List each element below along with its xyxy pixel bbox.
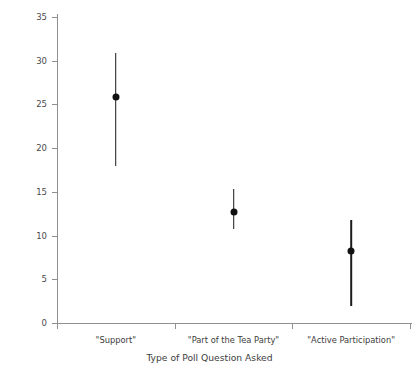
y-axis-tick [52,104,57,105]
x-axis-category-label: "Active Participation" [307,335,395,345]
chart-figure: Percent of Respondents Reporting Tea Par… [0,0,419,377]
y-axis-tick-label: 35 [7,12,47,22]
y-axis-tick-label: 10 [7,231,47,241]
y-axis-tick [52,279,57,280]
y-axis-tick-label: 5 [7,274,47,284]
y-axis-line [57,14,58,326]
data-point-marker [112,94,119,101]
y-axis-tick-label: 25 [7,99,47,109]
error-bar [115,53,117,166]
x-axis-line [55,323,412,324]
y-axis-tick-label: 30 [7,56,47,66]
y-axis-tick [52,61,57,62]
x-axis-tick [292,323,293,329]
x-axis-category-label: "Support" [96,335,136,345]
y-axis-tick-label: 0 [7,318,47,328]
y-axis-tick [52,148,57,149]
y-axis-tick-label: 20 [7,143,47,153]
x-axis-tick [410,323,411,329]
y-axis-tick-label: 15 [7,187,47,197]
x-axis-title: Type of Poll Question Asked [0,352,419,363]
x-axis-tick [175,323,176,329]
error-bar [350,220,352,307]
x-axis-tick [57,323,58,329]
data-point-marker [230,208,237,215]
data-point-marker [348,248,355,255]
y-axis-tick [52,192,57,193]
x-axis-category-label: "Part of the Tea Party" [188,335,279,345]
y-axis-tick [52,17,57,18]
y-axis-tick [52,236,57,237]
